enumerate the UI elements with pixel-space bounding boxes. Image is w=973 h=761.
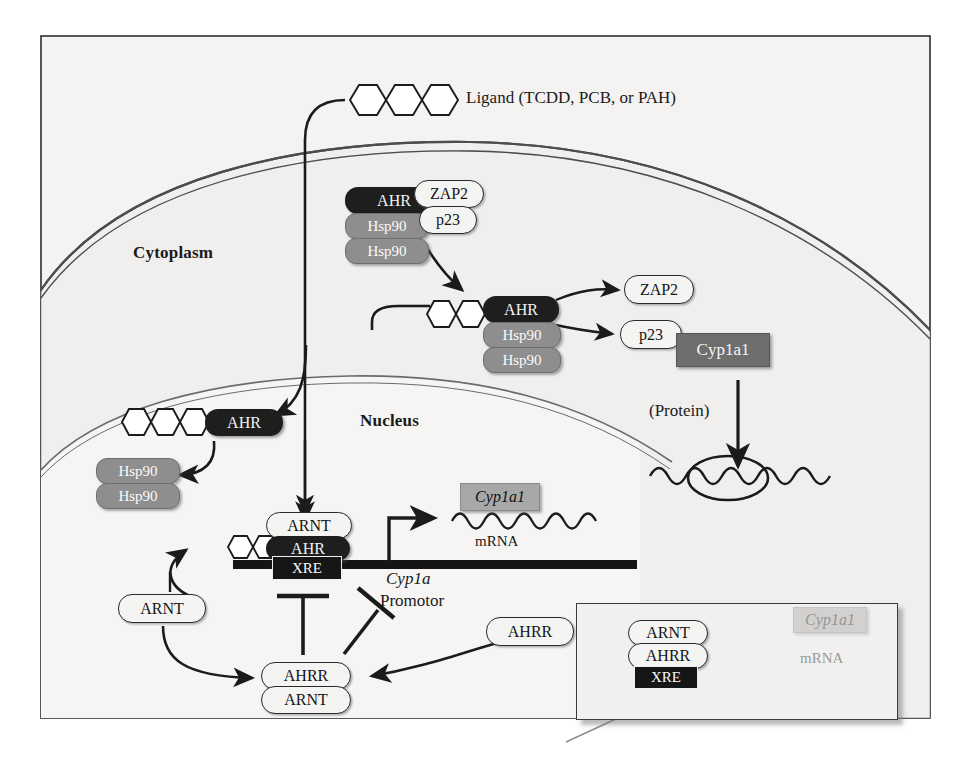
bound-ahr-pill: AHR (483, 296, 559, 323)
ligand-hexagons-icon (350, 85, 458, 115)
protein-note-label: (Protein) (649, 401, 709, 421)
cytoplasm-label: Cytoplasm (133, 243, 213, 263)
promotor-label: Promotor (380, 591, 444, 611)
p23-oval: p23 (419, 206, 477, 234)
inset-connector (566, 718, 618, 742)
free-hsp90-pill-1: Hsp90 (96, 458, 180, 484)
figure-canvas: Ligand (TCDD, PCB, or PAH) Cytoplasm Nuc… (0, 0, 973, 761)
nucleus-label: Nucleus (360, 411, 419, 431)
arnt-oval-free: ARNT (118, 594, 206, 623)
bound-hsp90-pill-1: Hsp90 (483, 322, 561, 348)
released-p23-oval: p23 (620, 320, 682, 349)
xre-box: XRE (272, 556, 342, 580)
ahrr-oval-free: AHRR (486, 617, 574, 646)
nuclear-ahr-pill: AHR (205, 409, 283, 436)
hsp90-pill-2: Hsp90 (345, 238, 429, 264)
hsp90-pill-1: Hsp90 (345, 213, 429, 239)
nuclear-ligand-hexagons-icon (122, 409, 209, 435)
arnt-oval-bound: ARNT (266, 512, 352, 539)
cyp1a-gene-label: Cyp1a (386, 569, 430, 589)
released-zap2-oval: ZAP2 (624, 275, 694, 304)
bound-hsp90-pill-2: Hsp90 (483, 347, 561, 373)
cyp1a1-protein-box: Cyp1a1 (676, 333, 770, 367)
mrna-label: mRNA (475, 533, 518, 550)
zap2-oval: ZAP2 (414, 180, 484, 208)
ligand-label: Ligand (TCDD, PCB, or PAH) (466, 88, 676, 108)
inset-xre-box: XRE (634, 666, 698, 689)
cyp1a1-transcript-tag: Cyp1a1 (460, 483, 540, 511)
free-hsp90-pill-2: Hsp90 (96, 483, 180, 509)
inset-cyp1a1-tag: Cyp1a1 (793, 607, 867, 633)
inset-mrna-label: mRNA (800, 650, 843, 667)
arnt-oval-complex: ARNT (261, 686, 351, 714)
